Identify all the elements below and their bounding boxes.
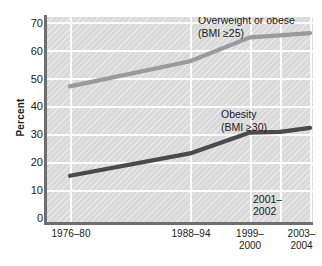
- plot-area: Overweight or obese (BMI ≥25) Obesity (B…: [47, 17, 313, 223]
- y-tick-70: 70: [17, 17, 43, 29]
- y-tick-20: 20: [17, 156, 43, 168]
- y-tick-40: 40: [17, 100, 43, 112]
- series-line-obesity: [70, 128, 310, 176]
- annotation-obesity-label: Obesity (BMI ≥30): [221, 108, 267, 133]
- x-tick-1976-80: 1976–80: [35, 228, 107, 240]
- y-tick-30: 30: [17, 128, 43, 140]
- x-axis-spine: [44, 222, 313, 225]
- y-tick-50: 50: [17, 73, 43, 85]
- y-tick-10: 10: [17, 184, 43, 196]
- series-line-overweight: [70, 33, 310, 86]
- x-tick-1999-2000: 1999– 2000: [220, 228, 280, 252]
- chart-figure: Percent 70 60 50 40 30 20 10 0 Overweigh…: [0, 0, 322, 266]
- y-axis-title: Percent: [15, 78, 26, 158]
- annotation-overweight-label: Overweight or obese (BMI ≥25): [198, 17, 295, 39]
- x-tick-2003-2004: 2003– 2004: [281, 228, 322, 252]
- y-tick-0: 0: [17, 212, 43, 224]
- y-axis-spine: [44, 15, 47, 225]
- annotation-2001-2002: 2001– 2002: [253, 193, 282, 217]
- x-tick-1988-94: 1988–94: [155, 228, 227, 240]
- y-tick-60: 60: [17, 45, 43, 57]
